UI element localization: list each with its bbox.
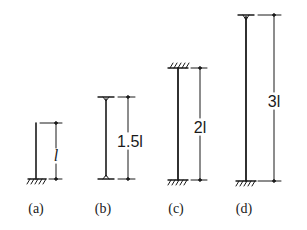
diagram-svg: l 1.5l 2l 3l (a) (b) (c) (d) — [0, 0, 307, 230]
caption-b: (b) — [95, 201, 112, 217]
length-label-b: 1.5l — [117, 133, 143, 150]
length-label-a: l — [54, 147, 59, 164]
dimension-line-a — [40, 122, 62, 181]
fixed-support-top-icon — [168, 63, 189, 68]
length-label-d: 3l — [268, 93, 280, 110]
fixed-support-icon — [27, 179, 46, 184]
pin-support-bottom-icon — [98, 175, 114, 179]
caption-d: (d) — [236, 201, 253, 217]
caption-a: (a) — [28, 201, 44, 217]
fixed-support-bottom-icon — [236, 181, 256, 186]
length-label-c: 2l — [194, 119, 206, 136]
caption-c: (c) — [168, 201, 184, 217]
column-buckling-diagram: l 1.5l 2l 3l (a) (b) (c) (d) — [0, 0, 307, 230]
fixed-support-bottom-icon — [168, 180, 188, 185]
